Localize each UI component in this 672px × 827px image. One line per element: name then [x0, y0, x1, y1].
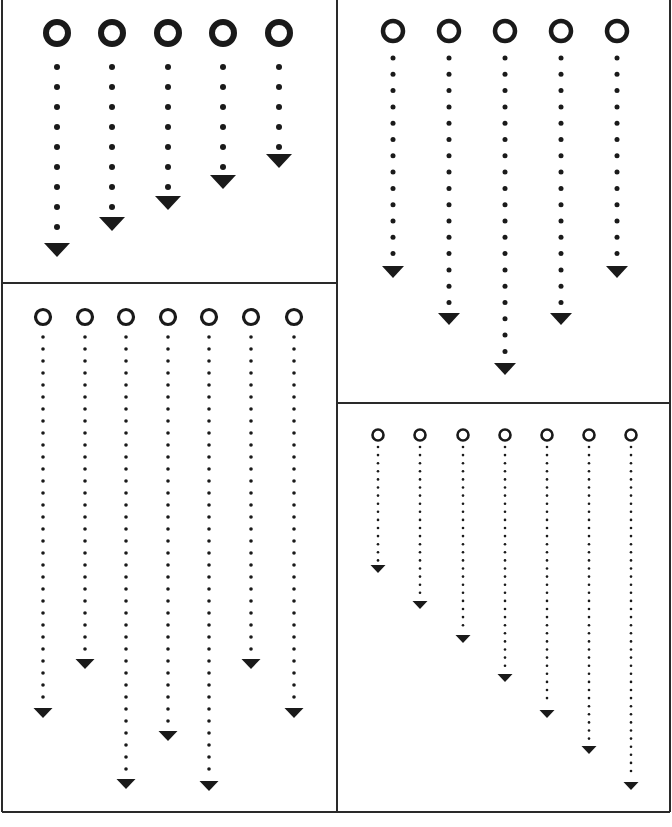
dot	[630, 737, 633, 740]
dot	[546, 446, 549, 449]
dot	[83, 395, 87, 399]
dot	[588, 705, 591, 708]
dot	[83, 503, 87, 507]
dot	[559, 251, 564, 256]
dot	[207, 515, 211, 519]
dot	[503, 284, 508, 289]
dot	[559, 88, 564, 93]
dot	[124, 455, 128, 459]
dot	[124, 383, 128, 387]
panel-frame	[2, 0, 670, 812]
dot	[447, 88, 452, 93]
dot	[249, 407, 253, 411]
dot	[207, 635, 211, 639]
dot	[503, 316, 508, 321]
dot	[292, 491, 296, 495]
dot	[292, 671, 296, 675]
dot	[207, 395, 211, 399]
dot	[292, 695, 296, 699]
dot	[504, 567, 507, 570]
dot	[559, 300, 564, 305]
dot	[419, 494, 422, 497]
ring-icon	[439, 21, 459, 41]
dot	[83, 335, 87, 339]
dot	[504, 511, 507, 514]
ring-icon	[161, 310, 176, 325]
flow-column	[624, 430, 639, 791]
dot	[391, 56, 396, 61]
dot	[419, 502, 422, 505]
dot	[249, 527, 253, 531]
dot	[83, 515, 87, 519]
dot	[249, 347, 253, 351]
dot	[588, 632, 591, 635]
dot	[546, 511, 549, 514]
dot	[588, 616, 591, 619]
dot	[207, 371, 211, 375]
dot	[109, 144, 115, 150]
dot	[207, 455, 211, 459]
dot	[292, 563, 296, 567]
dot	[630, 664, 633, 667]
dot	[447, 235, 452, 240]
dot	[419, 551, 422, 554]
dot	[124, 371, 128, 375]
dot	[166, 599, 170, 603]
flow-column	[540, 430, 555, 719]
dot	[276, 84, 282, 90]
dot	[207, 335, 211, 339]
arrow-down-icon	[550, 313, 572, 325]
ring-icon	[212, 22, 234, 44]
dot	[41, 695, 45, 699]
dot	[615, 104, 620, 109]
dot	[207, 695, 211, 699]
dot	[630, 527, 633, 530]
dot	[630, 713, 633, 716]
dot	[391, 104, 396, 109]
dot	[503, 72, 508, 77]
dot	[207, 671, 211, 675]
dot	[447, 202, 452, 207]
dot	[124, 503, 128, 507]
dot	[391, 121, 396, 126]
flow-column	[456, 430, 471, 644]
arrow-down-icon	[200, 781, 219, 791]
arrow-down-icon	[494, 363, 516, 375]
dot	[124, 515, 128, 519]
dot	[447, 251, 452, 256]
dot	[292, 647, 296, 651]
dot	[504, 624, 507, 627]
dot	[166, 659, 170, 663]
dot	[109, 204, 115, 210]
dot	[546, 600, 549, 603]
dot	[462, 519, 465, 522]
dot	[462, 575, 465, 578]
dot	[630, 754, 633, 757]
dot	[83, 539, 87, 543]
dot	[292, 587, 296, 591]
dot	[462, 559, 465, 562]
dot	[462, 494, 465, 497]
dot	[54, 164, 60, 170]
dot	[249, 647, 253, 651]
flow-column	[371, 430, 386, 574]
dot	[504, 454, 507, 457]
dot	[546, 494, 549, 497]
dot	[630, 486, 633, 489]
dot	[504, 494, 507, 497]
flow-column	[582, 430, 597, 755]
dot	[630, 535, 633, 538]
dot	[165, 104, 171, 110]
dot	[41, 623, 45, 627]
dot	[41, 479, 45, 483]
dot	[588, 673, 591, 676]
flow-column	[34, 310, 53, 719]
dot	[207, 359, 211, 363]
dot	[54, 184, 60, 190]
dot	[503, 235, 508, 240]
dot	[588, 478, 591, 481]
dot	[503, 300, 508, 305]
dot	[503, 186, 508, 191]
dot	[630, 624, 633, 627]
dot	[377, 494, 380, 497]
